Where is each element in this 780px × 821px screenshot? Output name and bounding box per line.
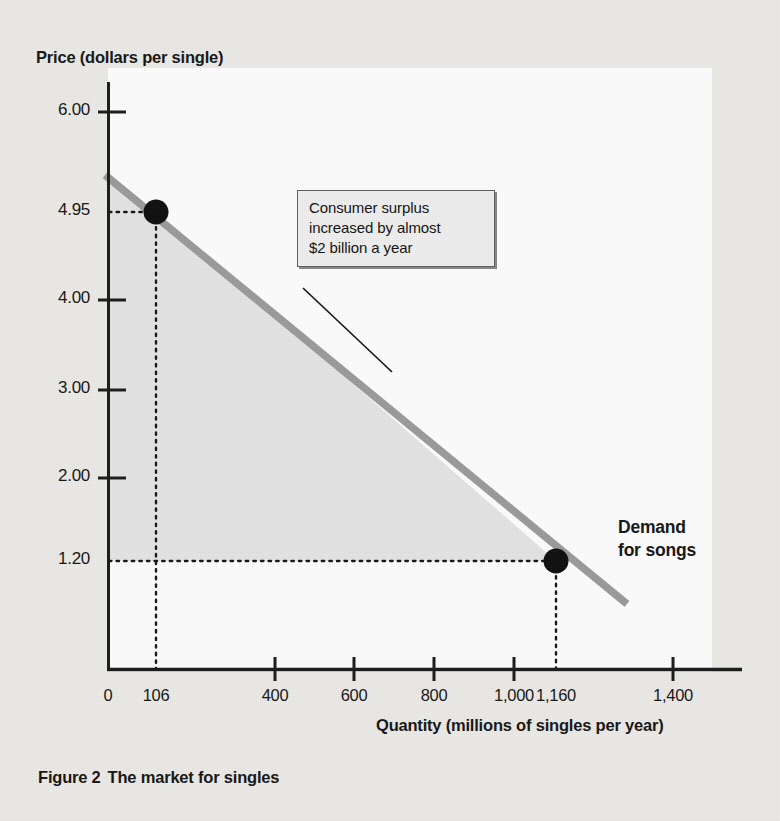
y-tick-label-300: 3.00 — [28, 378, 90, 398]
callout-line-2: increased by almost — [309, 218, 485, 238]
callout-line-1: Consumer surplus — [309, 198, 485, 218]
callout-line-3: $2 billion a year — [309, 238, 485, 258]
data-point-old-equilibrium — [144, 200, 169, 225]
y-tick-label-600: 6.00 — [28, 100, 90, 120]
y-axis-title: Price (dollars per single) — [36, 48, 223, 67]
demand-label-line-2: for songs — [618, 539, 696, 562]
x-tick-label-600: 600 — [324, 686, 384, 705]
data-point-new-equilibrium — [544, 549, 569, 574]
demand-curve-label: Demand for songs — [618, 516, 696, 562]
x-tick-label-400: 400 — [245, 686, 305, 705]
demand-label-line-1: Demand — [618, 516, 696, 539]
figure-caption-title: The market for singles — [108, 768, 280, 786]
x-tick-label-800: 800 — [404, 686, 464, 705]
x-tick-label-1160: 1,160 — [520, 686, 592, 705]
consumer-surplus-callout: Consumer surplus increased by almost $2 … — [297, 190, 495, 267]
figure-caption-number: Figure 2 — [38, 768, 101, 786]
figure-page: Price (dollars per single) Quantity (mil… — [0, 0, 780, 821]
x-tick-label-0: 0 — [88, 686, 128, 705]
y-tick-label-400: 4.00 — [28, 288, 90, 308]
x-tick-label-1400: 1,400 — [637, 686, 709, 705]
y-tick-label-120: 1.20 — [28, 549, 90, 569]
y-tick-label-495: 4.95 — [28, 200, 90, 220]
x-axis-title: Quantity (millions of singles per year) — [376, 716, 663, 735]
y-tick-label-200: 2.00 — [28, 466, 90, 486]
x-tick-label-106: 106 — [126, 686, 186, 705]
figure-caption: Figure 2The market for singles — [38, 768, 279, 787]
